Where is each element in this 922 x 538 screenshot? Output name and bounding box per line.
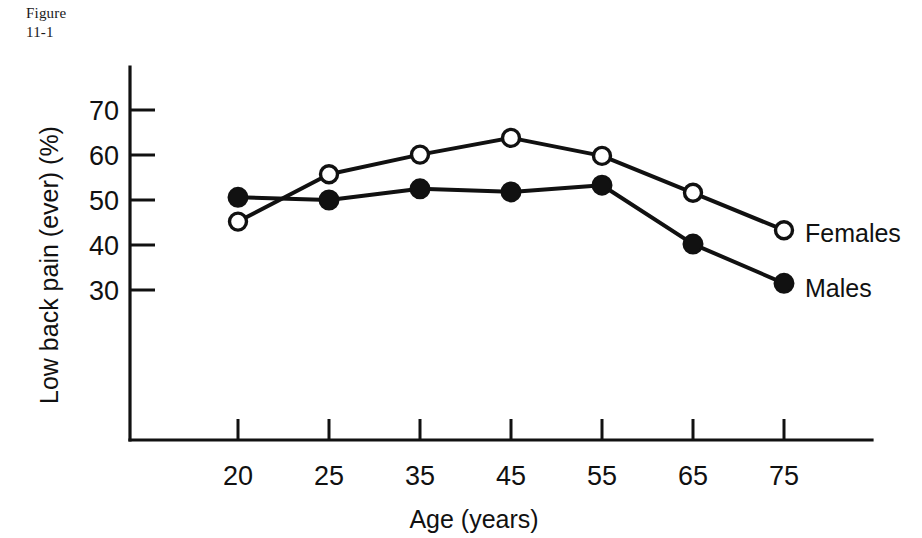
x-tick-label-45: 45 bbox=[496, 461, 526, 491]
x-tick-label-20: 20 bbox=[223, 461, 253, 491]
data-point-males-20 bbox=[229, 188, 248, 207]
data-point-males-65 bbox=[684, 235, 703, 254]
x-tick-label-35: 35 bbox=[405, 461, 435, 491]
data-point-males-25 bbox=[320, 191, 339, 210]
y-axis-ticks bbox=[130, 110, 155, 290]
x-axis-tick-labels: 20 25 35 45 55 65 75 bbox=[223, 461, 799, 491]
data-point-females-65 bbox=[685, 184, 702, 201]
x-tick-label-65: 65 bbox=[678, 461, 708, 491]
data-point-males-35 bbox=[411, 179, 430, 198]
x-axis-ticks bbox=[238, 419, 784, 440]
data-point-females-20 bbox=[230, 213, 247, 230]
y-tick-label-30: 30 bbox=[89, 276, 119, 306]
data-point-females-35 bbox=[412, 146, 429, 163]
data-point-females-75 bbox=[776, 222, 793, 239]
y-tick-label-50: 50 bbox=[89, 186, 119, 216]
y-tick-label-40: 40 bbox=[89, 231, 119, 261]
line-chart: 70 60 50 40 30 20 25 35 45 55 65 75 Ag bbox=[0, 0, 922, 538]
series-label-females: Females bbox=[805, 219, 901, 247]
data-point-males-45 bbox=[502, 182, 521, 201]
y-axis-title: Low back pain (ever) (%) bbox=[35, 126, 63, 404]
series-label-males: Males bbox=[805, 274, 872, 302]
data-point-females-25 bbox=[321, 166, 338, 183]
data-point-females-55 bbox=[594, 147, 611, 164]
figure-container: Figure 11-1 70 60 50 40 30 bbox=[0, 0, 922, 538]
x-axis-title: Age (years) bbox=[409, 505, 538, 533]
x-tick-label-25: 25 bbox=[314, 461, 344, 491]
y-axis-tick-labels: 70 60 50 40 30 bbox=[89, 96, 119, 306]
x-tick-label-75: 75 bbox=[769, 461, 799, 491]
data-point-females-45 bbox=[503, 129, 520, 146]
series-markers-males bbox=[229, 176, 794, 293]
data-point-males-55 bbox=[593, 176, 612, 195]
x-tick-label-55: 55 bbox=[587, 461, 617, 491]
y-tick-label-60: 60 bbox=[89, 141, 119, 171]
y-tick-label-70: 70 bbox=[89, 96, 119, 126]
series-males bbox=[229, 176, 794, 293]
data-point-males-75 bbox=[775, 274, 794, 293]
